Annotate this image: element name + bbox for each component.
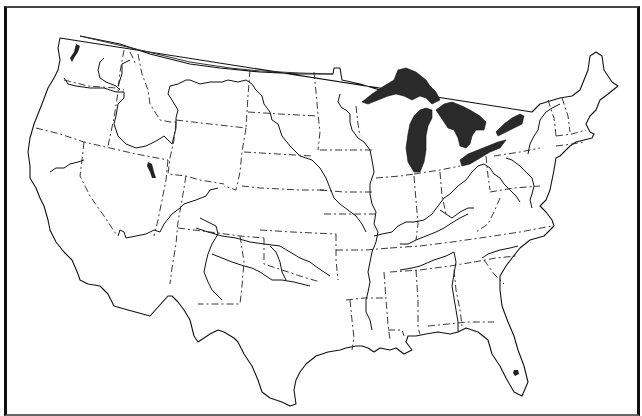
lake-huron <box>436 102 486 148</box>
canada-border <box>80 36 333 74</box>
great-salt-lake <box>147 162 156 178</box>
puget-sound <box>70 44 80 62</box>
lake-superior <box>362 68 440 104</box>
state-boundaries <box>36 50 586 350</box>
great-lakes <box>362 68 524 172</box>
us-basin-map: Contiguous United States with state and … <box>0 0 642 416</box>
lake-michigan <box>406 108 432 172</box>
river-basin-boundaries <box>50 58 560 332</box>
lake-ontario <box>496 114 524 136</box>
lake-okeechobee <box>513 370 519 376</box>
